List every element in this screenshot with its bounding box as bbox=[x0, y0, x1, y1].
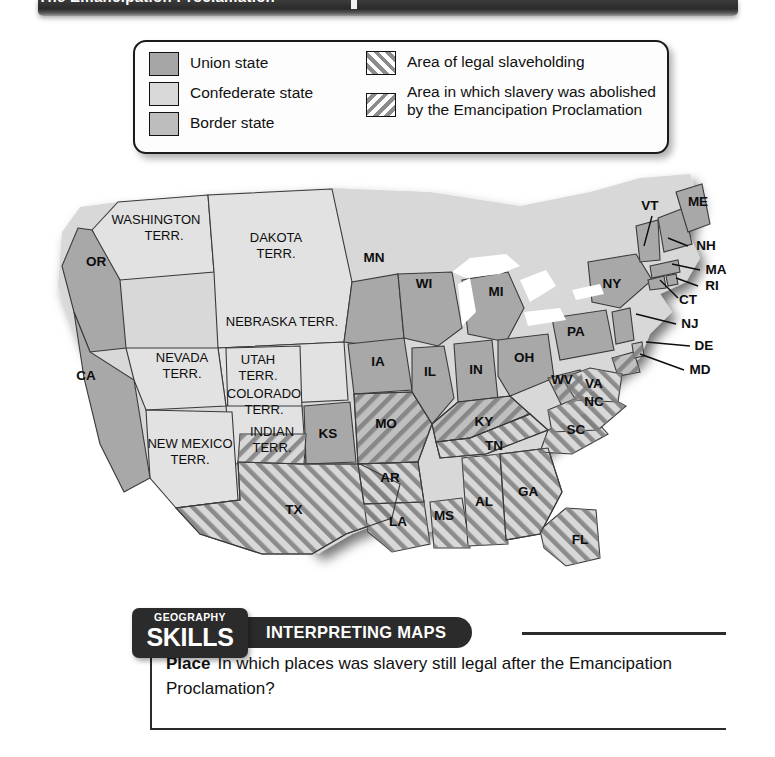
label-missouri: MO bbox=[375, 416, 397, 431]
label-maine: ME bbox=[688, 194, 708, 209]
leader-line-maryland bbox=[640, 354, 684, 370]
label-texas: TX bbox=[285, 502, 302, 517]
label-pennsylvania: PA bbox=[567, 324, 585, 339]
label-iowa: IA bbox=[371, 354, 385, 369]
label-massachusetts: MA bbox=[706, 262, 727, 277]
label-nebraska-territory: NEBRASKA TERR. bbox=[226, 314, 338, 329]
legend-label-legal-slaveholding: Area of legal slaveholding bbox=[407, 51, 585, 71]
label-illinois: IL bbox=[424, 364, 436, 379]
geography-skills-badge: GEOGRAPHY SKILLS bbox=[132, 608, 248, 658]
label-michigan: MI bbox=[489, 284, 504, 299]
us-map-svg: WASHINGTON TERR. DAKOTA TERR. NEBRASKA T… bbox=[0, 162, 775, 592]
state-rhode-island bbox=[666, 274, 678, 286]
label-utah-territory-line1: UTAH bbox=[241, 352, 275, 367]
legend-column-right: Area of legal slaveholding Area in which… bbox=[360, 42, 667, 152]
legend-swatch-abolished bbox=[366, 93, 396, 117]
label-new-jersey: NJ bbox=[681, 316, 698, 331]
legend-item-union-state: Union state bbox=[149, 52, 360, 76]
legend-swatch-union bbox=[149, 52, 179, 76]
label-kentucky: KY bbox=[475, 414, 494, 429]
legend-item-border-state: Border state bbox=[149, 112, 360, 136]
label-kansas: KS bbox=[319, 426, 338, 441]
label-indiana: IN bbox=[469, 362, 483, 377]
label-minnesota: MN bbox=[364, 250, 385, 265]
legend-label-border: Border state bbox=[190, 112, 274, 132]
geography-skills-block: INTERPRETING MAPS GEOGRAPHY SKILLS Place… bbox=[132, 608, 726, 730]
label-dakota-territory-line2: TERR. bbox=[257, 246, 296, 261]
legend-item-confederate-state: Confederate state bbox=[149, 82, 360, 106]
label-colorado-territory-line2: TERR. bbox=[245, 402, 284, 417]
label-dakota-territory-line1: DAKOTA bbox=[250, 230, 303, 245]
label-tennessee: TN bbox=[485, 438, 503, 453]
state-minnesota bbox=[344, 274, 404, 348]
interpreting-maps-banner: INTERPRETING MAPS bbox=[232, 617, 472, 648]
legend-label-union: Union state bbox=[190, 52, 268, 72]
legend-column-left: Union state Confederate state Border sta… bbox=[135, 42, 360, 152]
label-georgia: GA bbox=[518, 484, 539, 499]
page-title: The Emancipation Proclamation bbox=[38, 0, 738, 5]
skills-question: PlaceIn which places was slavery still l… bbox=[166, 652, 712, 701]
label-vermont: VT bbox=[641, 198, 659, 213]
legend-swatch-legal-slaveholding bbox=[366, 51, 396, 75]
label-mississippi: MS bbox=[434, 508, 454, 523]
label-connecticut: CT bbox=[679, 292, 698, 307]
label-florida: FL bbox=[572, 532, 589, 547]
label-utah-territory-line2: TERR. bbox=[239, 368, 278, 383]
label-new-mexico-territory-line2: TERR. bbox=[171, 452, 210, 467]
label-nevada-territory-line1: NEVADA bbox=[156, 350, 209, 365]
label-rhode-island: RI bbox=[705, 278, 719, 293]
legend-swatch-confederate bbox=[149, 82, 179, 106]
map-container: WASHINGTON TERR. DAKOTA TERR. NEBRASKA T… bbox=[0, 162, 775, 592]
label-delaware: DE bbox=[695, 338, 714, 353]
label-ohio: OH bbox=[514, 350, 534, 365]
label-washington-territory-line1: WASHINGTON bbox=[112, 212, 201, 227]
state-new-jersey bbox=[612, 308, 634, 344]
label-new-hampshire: NH bbox=[696, 238, 716, 253]
leader-line-delaware bbox=[646, 342, 690, 346]
label-arkansas: AR bbox=[380, 470, 400, 485]
label-alabama: AL bbox=[475, 494, 493, 509]
label-wisconsin: WI bbox=[416, 276, 433, 291]
badge-skills-label: SKILLS bbox=[132, 623, 248, 650]
label-oregon: OR bbox=[86, 254, 107, 269]
label-nevada-territory-line2: TERR. bbox=[163, 366, 202, 381]
header-white-sliver bbox=[351, 0, 357, 9]
map-legend: Union state Confederate state Border sta… bbox=[133, 40, 669, 154]
legend-item-abolished-by-emancipation-proclamation: Area in which slavery was abolished by t… bbox=[366, 81, 667, 119]
legend-label-abolished: Area in which slavery was abolished by t… bbox=[407, 81, 667, 119]
label-new-york: NY bbox=[603, 276, 622, 291]
label-louisiana: LA bbox=[389, 514, 407, 529]
legend-swatch-border bbox=[149, 112, 179, 136]
label-washington-territory-line2: TERR. bbox=[145, 228, 184, 243]
question-body-text: In which places was slavery still legal … bbox=[166, 654, 672, 698]
label-north-carolina: NC bbox=[584, 394, 604, 409]
state-vermont bbox=[636, 220, 660, 262]
badge-geography-label: GEOGRAPHY bbox=[132, 608, 248, 623]
label-virginia: VA bbox=[585, 376, 603, 391]
legend-label-confederate: Confederate state bbox=[190, 82, 313, 102]
legend-item-legal-slaveholding: Area of legal slaveholding bbox=[366, 51, 667, 75]
label-new-mexico-territory-line1: NEW MEXICO bbox=[147, 436, 232, 451]
label-indian-territory-line2: TERR. bbox=[253, 440, 292, 455]
label-indian-territory-line1: INDIAN bbox=[250, 424, 294, 439]
label-west-virginia: WV bbox=[551, 372, 573, 387]
label-south-carolina: SC bbox=[567, 422, 586, 437]
page-header-bar: The Emancipation Proclamation bbox=[38, 0, 738, 16]
label-california: CA bbox=[76, 368, 96, 383]
banner-horizontal-rule bbox=[522, 632, 726, 635]
label-maryland: MD bbox=[690, 362, 711, 377]
label-colorado-territory-line1: COLORADO bbox=[227, 386, 301, 401]
